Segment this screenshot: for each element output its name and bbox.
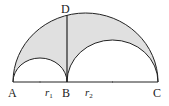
arbelos-diagram: A B C D r1 r2 [0, 0, 169, 106]
shaded-region [13, 13, 158, 82]
label-b: B [62, 86, 70, 100]
label-c: C [153, 86, 161, 100]
label-r2-sub: 2 [89, 92, 93, 100]
label-r1-sub: 1 [49, 92, 53, 100]
label-r2: r2 [85, 86, 93, 100]
label-r1: r1 [45, 86, 53, 100]
label-a: A [8, 86, 17, 100]
label-d: D [61, 2, 70, 16]
